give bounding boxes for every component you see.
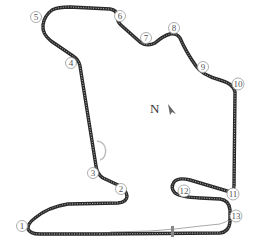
north-label: N — [150, 101, 160, 116]
svg-text:10: 10 — [234, 79, 244, 89]
svg-text:12: 12 — [180, 186, 189, 196]
svg-text:4: 4 — [69, 58, 74, 68]
svg-text:8: 8 — [172, 23, 177, 33]
svg-text:5: 5 — [34, 12, 39, 22]
corner-marker-10: 10 — [232, 78, 244, 90]
corner-marker-11: 11 — [227, 188, 239, 200]
corner-marker-6: 6 — [115, 11, 126, 22]
svg-text:7: 7 — [144, 33, 149, 43]
corner-marker-2: 2 — [116, 184, 127, 195]
svg-text:1: 1 — [20, 221, 25, 231]
corner-marker-4: 4 — [66, 58, 77, 69]
corner-marker-8: 8 — [169, 23, 180, 34]
track — [28, 7, 235, 234]
svg-text:9: 9 — [201, 62, 206, 72]
corner-marker-7: 7 — [141, 33, 152, 44]
svg-text:13: 13 — [232, 211, 242, 221]
svg-text:3: 3 — [91, 168, 96, 178]
runoff-area — [97, 141, 106, 160]
north-arrow-icon — [168, 104, 176, 115]
corner-marker-1: 1 — [17, 221, 28, 232]
corner-marker-13: 13 — [230, 210, 242, 222]
corner-marker-9: 9 — [198, 62, 209, 73]
corner-marker-5: 5 — [31, 12, 42, 23]
svg-text:11: 11 — [229, 189, 238, 199]
svg-text:6: 6 — [118, 11, 123, 21]
pit-lane — [110, 218, 230, 232]
svg-text:2: 2 — [119, 184, 124, 194]
north-indicator: N — [150, 101, 176, 116]
circuit-map: N 1 2 3 4 5 6 7 8 9 10 11 12 13 — [0, 0, 257, 249]
corner-marker-12: 12 — [178, 185, 190, 197]
corner-marker-3: 3 — [88, 168, 99, 179]
start-finish-line — [171, 226, 174, 237]
